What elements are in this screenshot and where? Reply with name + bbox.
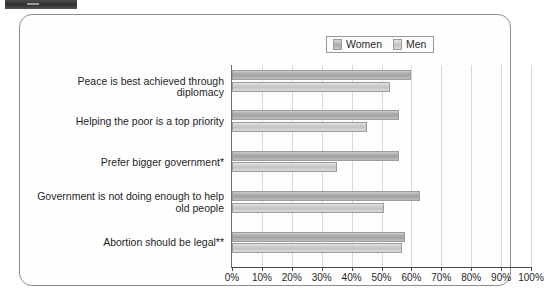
- axis-tick-10: [262, 267, 263, 271]
- bar-group: [232, 227, 531, 267]
- chart-frame: WomenMen Peace is best achieved through …: [19, 14, 511, 286]
- plot-area: [232, 65, 531, 267]
- axis-tick-label: 20%: [282, 272, 302, 283]
- axis-tick-100: [531, 267, 532, 271]
- legend-entry-men: Men: [393, 39, 426, 50]
- axis-tick-label: 40%: [342, 272, 362, 283]
- axis-tick-label: 90%: [491, 272, 511, 283]
- category-label: Prefer bigger government*: [28, 157, 224, 169]
- axis-tick-label: 0%: [225, 272, 239, 283]
- bar-women: [232, 110, 399, 120]
- legend-label: Women: [346, 39, 382, 50]
- axis-tick-label: 30%: [312, 272, 332, 283]
- axis-tick-50: [382, 267, 383, 271]
- axis-tick-90: [501, 267, 502, 271]
- axis-tick-label: 80%: [461, 272, 481, 283]
- bar-women: [232, 151, 399, 161]
- axis-tick-70: [441, 267, 442, 271]
- bar-group: [232, 105, 531, 145]
- axis-tick-40: [352, 267, 353, 271]
- bar-women: [232, 191, 420, 201]
- bar-group: [232, 186, 531, 226]
- category-label: Helping the poor is a top priority: [28, 116, 224, 128]
- axis-tick-label: 60%: [401, 272, 421, 283]
- bar-men: [232, 82, 390, 92]
- axis-tick-20: [292, 267, 293, 271]
- gridline-100: [531, 65, 532, 267]
- bar-group: [232, 146, 531, 186]
- bar-men: [232, 203, 384, 213]
- axis-tick-30: [322, 267, 323, 271]
- axis-tick-label: 70%: [431, 272, 451, 283]
- axis-tick-label: 10%: [252, 272, 272, 283]
- women-swatch-icon: [333, 39, 342, 50]
- legend-entry-women: Women: [333, 39, 382, 50]
- men-swatch-icon: [393, 39, 402, 50]
- bar-men: [232, 243, 402, 253]
- axis-tick-60: [411, 267, 412, 271]
- category-label: Peace is best achieved through diplomacy: [28, 76, 224, 99]
- legend-label: Men: [406, 39, 426, 50]
- axis-tick-80: [471, 267, 472, 271]
- bar-women: [232, 70, 411, 80]
- bar-women: [232, 232, 405, 242]
- axis-tick-label: 50%: [371, 272, 391, 283]
- axis-tick-0: [232, 267, 233, 271]
- bar-men: [232, 162, 337, 172]
- category-axis-labels: Peace is best achieved through diplomacy…: [28, 65, 224, 267]
- chart-legend: WomenMen: [326, 36, 434, 53]
- value-axis: 0%10%20%30%40%50%60%70%80%90%100%: [232, 267, 531, 289]
- category-label: Government is not doing enough to helpol…: [28, 191, 224, 214]
- scan-crop-bar: [5, 0, 77, 9]
- bar-group: [232, 65, 531, 105]
- bar-men: [232, 122, 367, 132]
- category-label: Abortion should be legal**: [28, 237, 224, 249]
- axis-tick-label: 100%: [518, 272, 544, 283]
